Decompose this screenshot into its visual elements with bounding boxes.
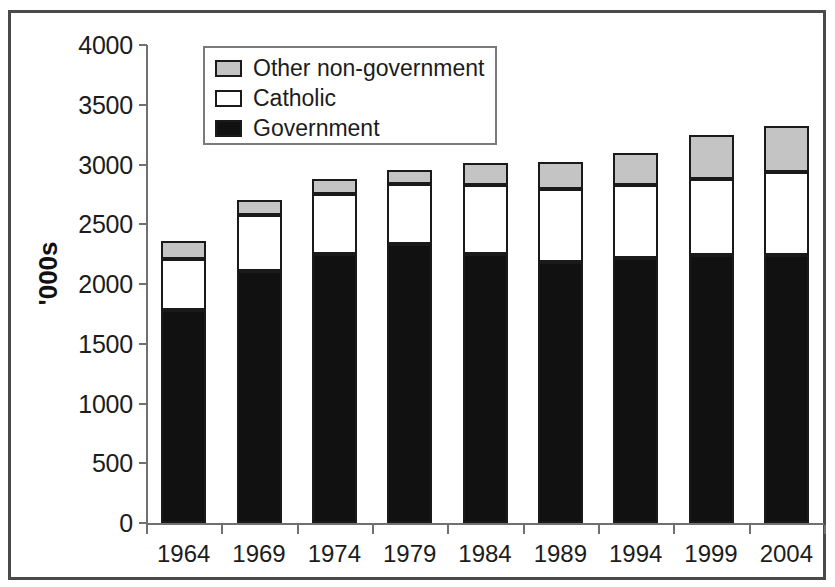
legend-item-catholic: Catholic (215, 84, 485, 113)
bar-segment-catholic (387, 184, 432, 244)
y-axis-tick-label: 4000 (78, 31, 133, 60)
bar-segment-other-non-government (161, 241, 206, 259)
y-axis-tick-label: 3000 (78, 150, 133, 179)
bar-segment-catholic (764, 172, 809, 254)
bar-group (689, 45, 734, 523)
chart-legend: Other non-government Catholic Government (203, 46, 497, 145)
bar-segment-catholic (689, 179, 734, 255)
bar-group (538, 45, 583, 523)
bar-segment-government (237, 271, 282, 523)
bar-group (613, 45, 658, 523)
frame-border-left (8, 10, 11, 580)
y-axis-tick-label: 3500 (78, 90, 133, 119)
x-axis-tick-label: 1994 (609, 540, 662, 568)
bar-segment-government (463, 254, 508, 523)
bar-segment-government (387, 244, 432, 523)
x-axis-tick-label: 1999 (684, 540, 737, 568)
grey-swatch-icon (215, 60, 242, 77)
bar-segment-catholic (312, 194, 357, 254)
bar-segment-government (689, 255, 734, 523)
x-axis-tick (372, 525, 374, 534)
legend-item-government: Government (215, 114, 485, 143)
bar-segment-other-non-government (312, 179, 357, 194)
chart-figure: '000s 05001000150020002500300035004000 1… (0, 0, 835, 587)
bar-segment-catholic (161, 259, 206, 310)
y-axis-tick-labels: 05001000150020002500300035004000 (30, 0, 133, 587)
bar-segment-catholic (538, 189, 583, 262)
bar-segment-other-non-government (538, 162, 583, 189)
bar-segment-government (613, 258, 658, 523)
y-axis-tick-label: 0 (119, 509, 133, 538)
bar-segment-government (312, 254, 357, 523)
legend-label: Government (253, 117, 380, 140)
bar-segment-other-non-government (463, 163, 508, 185)
bar-segment-catholic (613, 185, 658, 258)
bar-segment-government (538, 262, 583, 523)
bar-segment-catholic (237, 215, 282, 271)
x-axis-tick-label: 1969 (232, 540, 285, 568)
x-axis-tick-label: 1979 (383, 540, 436, 568)
x-axis-tick (673, 525, 675, 534)
x-axis-tick (749, 525, 751, 534)
x-axis-tick-label: 2004 (760, 540, 813, 568)
bar-group (764, 45, 809, 523)
x-axis-tick (523, 525, 525, 534)
bar-segment-other-non-government (613, 153, 658, 185)
bar-segment-other-non-government (387, 170, 432, 184)
bar-segment-other-non-government (689, 135, 734, 179)
y-axis-tick-label: 2500 (78, 210, 133, 239)
bar-segment-catholic (463, 185, 508, 254)
black-swatch-icon (215, 120, 242, 137)
x-axis-tick-label: 1974 (308, 540, 361, 568)
white-swatch-icon (215, 90, 242, 107)
y-axis-tick-label: 1000 (78, 389, 133, 418)
x-axis-tick (447, 525, 449, 534)
x-axis-tick (146, 525, 148, 534)
x-axis-tick (297, 525, 299, 534)
bar-segment-other-non-government (237, 200, 282, 215)
x-axis-tick-label: 1964 (157, 540, 210, 568)
x-axis-tick (824, 525, 826, 534)
legend-item-other-non-government: Other non-government (215, 54, 485, 83)
x-axis-line (146, 523, 824, 525)
y-axis-tick-label: 2000 (78, 270, 133, 299)
bar-segment-government (764, 255, 809, 523)
x-axis-tick-label: 1989 (534, 540, 587, 568)
x-axis-tick-label: 1984 (458, 540, 511, 568)
x-axis-tick (221, 525, 223, 534)
bar-segment-other-non-government (764, 126, 809, 173)
legend-label: Catholic (253, 87, 336, 110)
y-axis-tick-label: 500 (92, 449, 133, 478)
legend-label: Other non-government (253, 57, 484, 80)
x-axis-tick (598, 525, 600, 534)
bar-group (161, 45, 206, 523)
y-axis-tick-label: 1500 (78, 329, 133, 358)
bar-segment-government (161, 310, 206, 523)
